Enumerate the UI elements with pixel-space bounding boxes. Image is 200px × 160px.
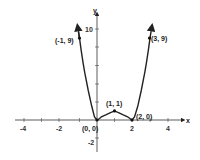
tick-label: -2 (56, 125, 62, 132)
point-label: (0, 0) (82, 125, 98, 133)
chart-root: x y -4 -2 2 4 10 -2 (-1, 9) (3, 9) (1, 1… (0, 0, 200, 160)
point-label: (1, 1) (106, 100, 122, 108)
key-points (78, 37, 151, 122)
point-label: (2, 0) (136, 113, 152, 121)
tick-label: 10 (85, 26, 93, 33)
x-axis-label: x (186, 117, 190, 124)
tick-label: 2 (130, 125, 134, 132)
tick-label: -4 (20, 125, 26, 132)
function-plot: x y -4 -2 2 4 10 -2 (-1, 9) (3, 9) (1, 1… (0, 0, 200, 160)
tick-label: -2 (88, 139, 94, 146)
point-label: (-1, 9) (55, 37, 74, 45)
point-2-0 (130, 118, 133, 121)
left-arrow (78, 27, 80, 38)
point-m1-9 (78, 37, 81, 40)
point-label: (3, 9) (151, 35, 167, 43)
point-1-1 (113, 109, 116, 112)
point-0-0 (95, 118, 98, 121)
y-axis-label: y (93, 7, 97, 15)
tick-label: 4 (166, 125, 170, 132)
